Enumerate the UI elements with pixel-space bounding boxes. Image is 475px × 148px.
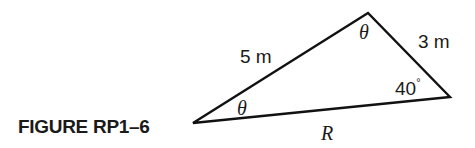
angle-value: 40 <box>395 78 416 99</box>
triangle <box>193 13 450 123</box>
figure-caption: FIGURE RP1–6 <box>18 117 150 136</box>
angle-label-left-theta: θ <box>237 98 247 118</box>
side-label-3m: 3 m <box>418 32 450 51</box>
angle-label-top-theta: θ <box>359 22 369 42</box>
side-label-5m: 5 m <box>240 47 272 66</box>
side-label-R: R <box>321 123 333 143</box>
angle-label-right-40deg: 40° <box>395 79 421 98</box>
degree-symbol: ° <box>416 76 420 88</box>
